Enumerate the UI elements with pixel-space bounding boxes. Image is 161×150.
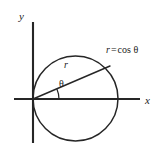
equation-function: cos bbox=[118, 44, 131, 55]
y-axis-label: y bbox=[19, 11, 24, 22]
angle-theta-label: θ bbox=[59, 79, 64, 89]
radius-label: r bbox=[64, 60, 68, 70]
radius-vector-line bbox=[33, 66, 110, 99]
figure-canvas bbox=[0, 0, 161, 150]
polar-circle-figure: y x r θ r=cos θ bbox=[0, 0, 161, 150]
angle-arc bbox=[57, 89, 59, 99]
equation-operator: = bbox=[110, 44, 118, 55]
equation-angle: θ bbox=[133, 44, 138, 55]
equation-label: r=cos θ bbox=[106, 45, 138, 55]
x-axis-label: x bbox=[145, 95, 150, 106]
